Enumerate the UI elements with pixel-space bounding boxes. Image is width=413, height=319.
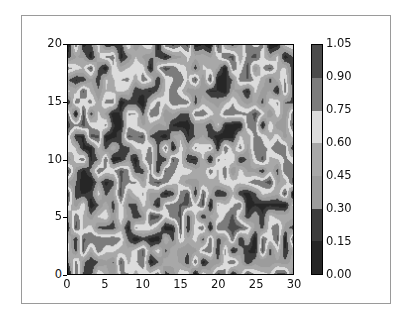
colorbar-tick-label: 0.75 (326, 104, 352, 116)
contour-canvas (68, 45, 293, 274)
x-tick-label: 5 (95, 279, 115, 291)
colorbar-band (312, 143, 322, 176)
y-tick-label: 10 (42, 154, 62, 166)
colorbar-band (312, 45, 322, 78)
colorbar-tick-label: 0.60 (326, 137, 352, 149)
contour-plot-area (67, 44, 294, 275)
x-tick-label: 30 (284, 279, 304, 291)
y-tick-label: 15 (42, 96, 62, 108)
colorbar-band (312, 78, 322, 111)
colorbar-tick-label: 0.30 (326, 203, 352, 215)
x-tick-label: 0 (57, 279, 77, 291)
colorbar-tick-label: 0.90 (326, 71, 352, 83)
colorbar-band (312, 176, 322, 209)
y-tick-label: 5 (42, 211, 62, 223)
y-tick-label: 20 (42, 38, 62, 50)
colorbar-tick-label: 0.45 (326, 170, 352, 182)
colorbar-band (312, 241, 322, 274)
colorbar-tick-label: 1.05 (326, 38, 352, 50)
colorbar-band (312, 110, 322, 143)
x-tick-label: 15 (171, 279, 191, 291)
colorbar (311, 44, 323, 275)
x-tick-label: 20 (208, 279, 228, 291)
colorbar-tick-label: 0.00 (326, 269, 352, 281)
x-tick-label: 10 (133, 279, 153, 291)
colorbar-band (312, 208, 322, 241)
colorbar-tick-label: 0.15 (326, 236, 352, 248)
x-tick-label: 25 (246, 279, 266, 291)
